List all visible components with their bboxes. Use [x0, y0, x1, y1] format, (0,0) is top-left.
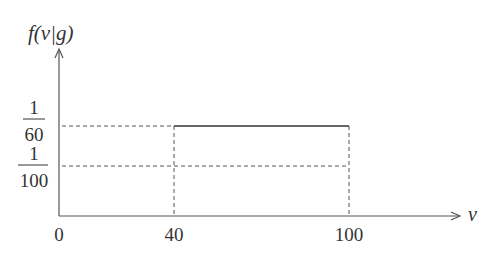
y-tick-1-100-numerator: 1: [29, 143, 39, 164]
x-tick-100: 100: [335, 224, 364, 245]
y-tick-1-60-numerator: 1: [29, 97, 39, 118]
y-tick-1-100-denominator: 100: [20, 170, 49, 191]
x-tick-0: 0: [54, 224, 64, 245]
x-axis-label: v: [468, 203, 477, 225]
y-tick-1-60-denominator: 60: [25, 124, 44, 145]
x-tick-40: 40: [165, 224, 184, 245]
chart-svg: f(v|g) 1 60 1 100 0 40 100 v: [0, 0, 491, 261]
y-axis-label: f(v|g): [28, 21, 73, 45]
